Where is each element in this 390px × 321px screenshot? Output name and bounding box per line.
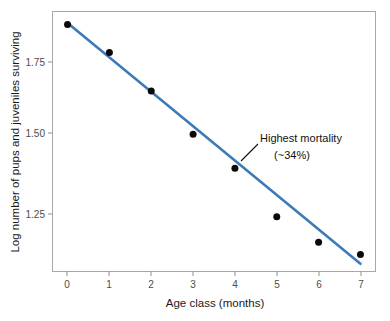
x-axis-title: Age class (months) <box>166 297 265 309</box>
x-tick-label: 0 <box>64 279 70 290</box>
x-tick-label: 3 <box>190 279 196 290</box>
annotation-line-2: (~34%) <box>274 149 310 161</box>
data-point <box>315 239 322 246</box>
figure-background <box>0 0 390 321</box>
y-tick-label: 1.25 <box>26 209 46 220</box>
chart-figure: 1.75 1.50 1.25 0 1 2 3 4 5 6 7 Age class… <box>0 0 390 321</box>
x-tick-label: 1 <box>106 279 112 290</box>
data-point <box>190 131 197 138</box>
data-point <box>148 87 155 94</box>
x-tick-label: 6 <box>316 279 322 290</box>
scatter-plot: 1.75 1.50 1.25 0 1 2 3 4 5 6 7 Age class… <box>0 0 390 321</box>
y-axis-title: Log number of pups and juveniles survivi… <box>9 31 21 252</box>
annotation-line-1: Highest mortality <box>260 132 342 144</box>
x-tick-label: 5 <box>274 279 280 290</box>
y-tick-label: 1.75 <box>26 57 46 68</box>
x-tick-label: 7 <box>358 279 364 290</box>
x-tick-label: 4 <box>232 279 238 290</box>
data-point <box>231 165 238 172</box>
x-tick-label: 2 <box>148 279 154 290</box>
data-point <box>273 213 280 220</box>
y-tick-label: 1.50 <box>26 128 46 139</box>
data-point <box>64 21 71 28</box>
data-point <box>357 251 364 258</box>
data-point <box>106 49 113 56</box>
